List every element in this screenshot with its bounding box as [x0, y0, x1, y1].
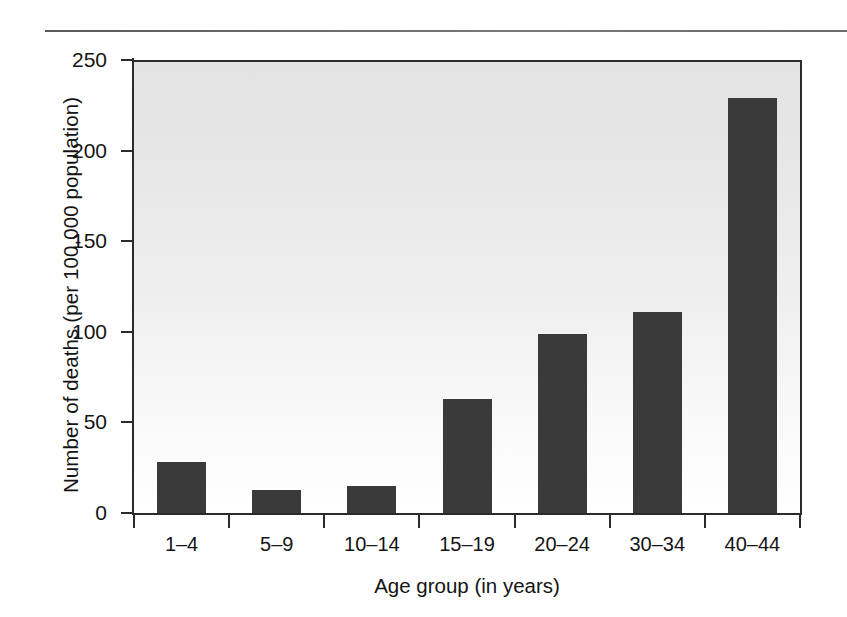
x-axis-tick-label: 20–24 [515, 534, 610, 554]
y-axis-tick [121, 512, 133, 514]
bar [728, 98, 777, 515]
x-axis-tick-label: 10–14 [324, 534, 419, 554]
x-axis-tick-label: 30–34 [610, 534, 705, 554]
x-axis-tick [514, 515, 516, 528]
y-axis-tick-label: 150 [45, 230, 107, 251]
x-axis-tick-label: 5–9 [229, 534, 324, 554]
y-axis-tick-label: 200 [45, 140, 107, 161]
y-axis-tick-label: 0 [45, 502, 107, 523]
x-axis-tick [323, 515, 325, 528]
top-horizontal-rule [45, 30, 847, 32]
y-axis-title: Number of deaths (per 100,000 population… [59, 60, 83, 530]
y-axis-tick-label: 250 [45, 49, 107, 70]
y-axis-tick-label: 100 [45, 321, 107, 342]
bar [157, 462, 206, 515]
x-axis-tick-label: 40–44 [705, 534, 800, 554]
x-axis-line [132, 513, 802, 515]
y-axis-tick-label: 50 [45, 411, 107, 432]
plot-area [134, 60, 802, 515]
x-axis-tick [133, 515, 135, 528]
x-axis-tick [704, 515, 706, 528]
y-axis-tick [121, 331, 133, 333]
bar [538, 334, 587, 515]
x-axis-tick [228, 515, 230, 528]
y-axis-tick [121, 240, 133, 242]
x-axis-tick-label: 1–4 [134, 534, 229, 554]
x-axis-title: Age group (in years) [134, 574, 800, 598]
bar-chart-figure: Number of deaths (per 100,000 population… [0, 0, 847, 617]
x-axis-tick [609, 515, 611, 528]
x-axis-tick [799, 515, 801, 528]
bar [347, 486, 396, 515]
y-axis-line [132, 58, 134, 515]
bar [252, 490, 301, 515]
y-axis-tick [121, 421, 133, 423]
y-axis-tick [121, 59, 133, 61]
bar [443, 399, 492, 515]
bar [633, 312, 682, 515]
x-axis-tick-label: 15–19 [419, 534, 514, 554]
y-axis-tick [121, 150, 133, 152]
x-axis-tick [418, 515, 420, 528]
